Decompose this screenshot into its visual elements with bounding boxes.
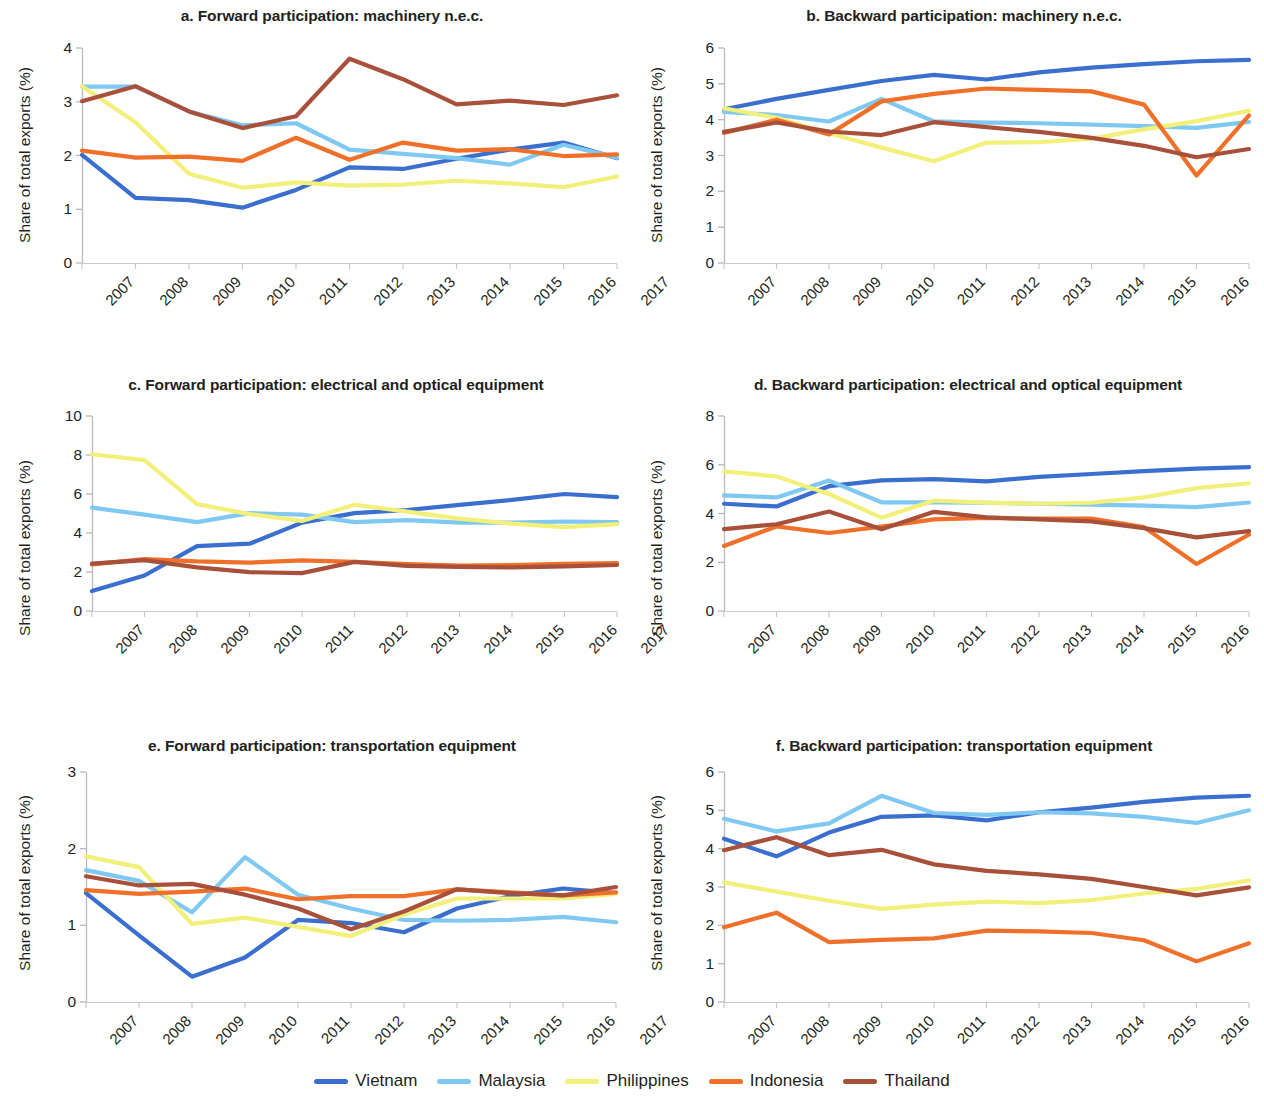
panel-b: b. Backward participation: machinery n.e… bbox=[632, 0, 1264, 362]
legend-swatch-icon bbox=[843, 1079, 877, 1084]
panel-a-ylabel: Share of total exports (%) bbox=[16, 40, 34, 270]
x-tick-label: 2010 bbox=[901, 273, 937, 309]
x-tick-label: 2007 bbox=[112, 621, 148, 657]
x-tick-label: 2013 bbox=[423, 273, 459, 309]
x-tick-label: 2011 bbox=[321, 621, 356, 656]
legend-item-vietnam[interactable]: Vietnam bbox=[314, 1071, 417, 1091]
y-tick-label: 2 bbox=[688, 917, 714, 933]
y-tick-label: 3 bbox=[688, 879, 714, 895]
series-line-indonesia[interactable] bbox=[724, 518, 1249, 564]
x-tick-label: 2007 bbox=[102, 273, 138, 309]
y-tick-label: 4 bbox=[46, 40, 72, 56]
x-tick-label: 2012 bbox=[1006, 621, 1042, 657]
panel-a-canvas bbox=[82, 48, 617, 264]
panel-c: c. Forward participation: electrical and… bbox=[0, 368, 632, 730]
x-tick-label: 2011 bbox=[315, 273, 350, 308]
panel-d-title: d. Backward participation: electrical an… bbox=[702, 374, 1234, 396]
y-tick-label: 1 bbox=[46, 201, 72, 217]
x-tick-label: 2014 bbox=[1111, 621, 1147, 657]
legend-swatch-icon bbox=[709, 1079, 743, 1084]
legend-label: Philippines bbox=[606, 1071, 688, 1091]
legend-item-philippines[interactable]: Philippines bbox=[565, 1071, 688, 1091]
y-tick-label: 5 bbox=[688, 76, 714, 92]
series-line-malaysia[interactable] bbox=[86, 857, 616, 922]
x-tick-label: 2010 bbox=[269, 621, 305, 657]
x-tick-label: 2008 bbox=[155, 273, 191, 309]
y-tick-label: 0 bbox=[56, 603, 82, 619]
series-line-thailand[interactable] bbox=[724, 512, 1249, 538]
y-tick-label: 8 bbox=[56, 447, 82, 463]
x-tick-label: 2009 bbox=[849, 621, 885, 657]
y-tick-label: 8 bbox=[688, 408, 714, 424]
y-tick-label: 0 bbox=[46, 255, 72, 271]
series-line-thailand[interactable] bbox=[92, 560, 617, 573]
panel-c-plot bbox=[92, 416, 617, 611]
x-tick-label: 2013 bbox=[424, 1012, 460, 1048]
x-tick-label: 2015 bbox=[1164, 1012, 1200, 1048]
panel-d-ylabel: Share of total exports (%) bbox=[648, 433, 666, 663]
figure-root: a. Forward participation: machinery n.e.… bbox=[0, 0, 1264, 1102]
x-tick-label: 2016 bbox=[1216, 273, 1252, 309]
legend-label: Thailand bbox=[884, 1071, 949, 1091]
y-tick-label: 6 bbox=[56, 486, 82, 502]
panel-b-title: b. Backward participation: machinery n.e… bbox=[672, 6, 1256, 27]
legend-label: Malaysia bbox=[478, 1071, 545, 1091]
x-tick-label: 2015 bbox=[532, 621, 568, 657]
x-tick-label: 2014 bbox=[479, 621, 515, 657]
y-tick-label: 6 bbox=[688, 764, 714, 780]
y-tick-label: 1 bbox=[50, 917, 76, 933]
panel-f: f. Backward participation: transportatio… bbox=[632, 730, 1264, 1070]
series-line-indonesia[interactable] bbox=[724, 88, 1249, 175]
panel-b-ylabel: Share of total exports (%) bbox=[648, 40, 666, 270]
x-tick-label: 2009 bbox=[849, 273, 885, 309]
legend-swatch-icon bbox=[314, 1079, 348, 1084]
x-tick-label: 2010 bbox=[901, 1012, 937, 1048]
series-line-vietnam[interactable] bbox=[86, 889, 616, 977]
y-tick-label: 4 bbox=[56, 525, 82, 541]
series-line-indonesia[interactable] bbox=[724, 913, 1249, 962]
series-line-vietnam[interactable] bbox=[724, 60, 1249, 109]
y-tick-label: 0 bbox=[688, 255, 714, 271]
x-tick-label: 2012 bbox=[371, 1012, 407, 1048]
panel-f-canvas bbox=[724, 772, 1249, 1003]
x-tick-label: 2014 bbox=[477, 1012, 513, 1048]
legend-item-malaysia[interactable]: Malaysia bbox=[437, 1071, 545, 1091]
x-tick-label: 2013 bbox=[1059, 273, 1095, 309]
series-line-philippines[interactable] bbox=[724, 880, 1249, 908]
x-tick-label: 2007 bbox=[106, 1012, 142, 1048]
x-tick-label: 2016 bbox=[583, 273, 619, 309]
panel-f-title: f. Backward participation: transportatio… bbox=[672, 736, 1256, 757]
x-tick-label: 2012 bbox=[374, 621, 410, 657]
y-tick-label: 4 bbox=[688, 841, 714, 857]
panel-b-canvas bbox=[724, 48, 1249, 264]
panel-e: e. Forward participation: transportation… bbox=[0, 730, 632, 1070]
legend-label: Vietnam bbox=[355, 1071, 417, 1091]
series-line-thailand[interactable] bbox=[724, 837, 1249, 895]
legend-item-indonesia[interactable]: Indonesia bbox=[709, 1071, 824, 1091]
legend-swatch-icon bbox=[565, 1079, 599, 1084]
y-tick-label: 2 bbox=[46, 148, 72, 164]
panel-e-ylabel: Share of total exports (%) bbox=[16, 768, 34, 998]
x-tick-label: 2010 bbox=[265, 1012, 301, 1048]
panel-b-plot bbox=[724, 48, 1249, 263]
x-tick-label: 2013 bbox=[1059, 1012, 1095, 1048]
x-tick-label: 2016 bbox=[583, 1012, 619, 1048]
y-tick-label: 0 bbox=[688, 603, 714, 619]
x-tick-label: 2008 bbox=[164, 621, 200, 657]
panel-a: a. Forward participation: machinery n.e.… bbox=[0, 0, 632, 362]
y-tick-label: 0 bbox=[688, 994, 714, 1010]
series-line-vietnam[interactable] bbox=[92, 494, 617, 591]
y-tick-label: 1 bbox=[688, 219, 714, 235]
series-line-philippines[interactable] bbox=[92, 454, 617, 527]
y-tick-label: 6 bbox=[688, 40, 714, 56]
x-tick-label: 2015 bbox=[530, 273, 566, 309]
x-tick-label: 2012 bbox=[1006, 1012, 1042, 1048]
panel-d-plot bbox=[724, 416, 1249, 611]
y-tick-label: 6 bbox=[688, 457, 714, 473]
legend-label: Indonesia bbox=[750, 1071, 824, 1091]
legend-item-thailand[interactable]: Thailand bbox=[843, 1071, 949, 1091]
series-line-thailand[interactable] bbox=[82, 59, 617, 128]
y-tick-label: 1 bbox=[688, 956, 714, 972]
y-tick-label: 0 bbox=[50, 994, 76, 1010]
x-tick-label: 2014 bbox=[476, 273, 512, 309]
